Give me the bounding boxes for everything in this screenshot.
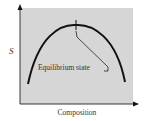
- x-axis-arrow-icon: [133, 102, 139, 107]
- equilibrium-state-label: Equilibrium state: [38, 63, 90, 72]
- plot-canvas: [0, 0, 144, 121]
- y-axis-arrow-icon: [18, 4, 23, 10]
- entropy-composition-diagram: S Equilibrium state Composition: [0, 0, 144, 121]
- y-axis-label: S: [9, 46, 14, 56]
- x-axis-label: Composition: [0, 108, 144, 117]
